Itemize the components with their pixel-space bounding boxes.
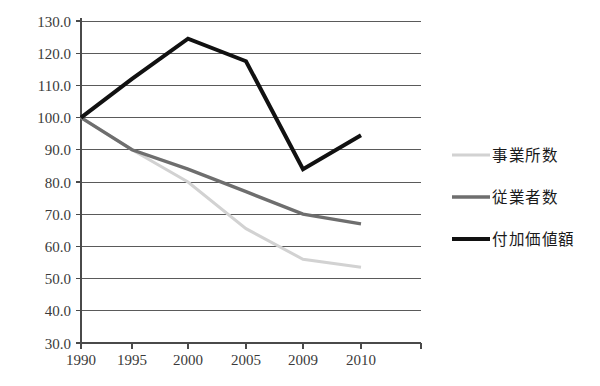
x-tick-marks	[81, 343, 421, 349]
y-axis-tick-label: 120.0	[37, 46, 71, 62]
y-axis-tick-label: 100.0	[37, 110, 71, 126]
x-axis-tick-labels: 199019952000200520092010	[66, 352, 376, 368]
y-axis-tick-label: 90.0	[45, 142, 71, 158]
chart-canvas: 130.0120.0110.0100.090.080.070.060.050.0…	[0, 0, 600, 386]
y-axis-tick-label: 40.0	[45, 303, 71, 319]
x-axis-tick-label: 2000	[173, 352, 203, 368]
y-axis-tick-label: 60.0	[45, 239, 71, 255]
x-axis-tick-label: 2009	[288, 352, 318, 368]
legend-label-3: 付加価値額	[492, 231, 575, 249]
y-axis-tick-label: 50.0	[45, 271, 71, 287]
x-axis-tick-label: 1995	[117, 352, 147, 368]
series-line-1	[81, 118, 361, 268]
y-tick-marks	[76, 21, 81, 343]
x-axis-tick-label: 1990	[66, 352, 96, 368]
y-axis-tick-label: 130.0	[37, 14, 71, 30]
y-axis-tick-label: 110.0	[38, 78, 71, 94]
y-axis-tick-label: 30.0	[45, 336, 71, 352]
legend-label-2: 従業者数	[492, 189, 558, 207]
legend-label-1: 事業所数	[492, 147, 558, 165]
y-axis-tick-label: 70.0	[45, 207, 71, 223]
data-series	[81, 39, 361, 268]
x-axis-tick-label: 2010	[346, 352, 376, 368]
y-axis-tick-label: 80.0	[45, 175, 71, 191]
x-axis-tick-label: 2005	[231, 352, 261, 368]
y-axis-tick-labels: 130.0120.0110.0100.090.080.070.060.050.0…	[37, 14, 71, 352]
chart-legend: 事業所数従業者数付加価値額	[452, 147, 575, 249]
line-chart: 130.0120.0110.0100.090.080.070.060.050.0…	[0, 0, 600, 386]
